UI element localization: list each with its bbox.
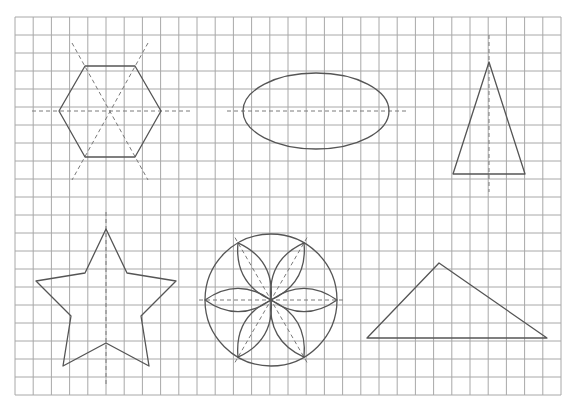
symmetry-axes [32, 35, 489, 386]
flower-in-circle [205, 234, 337, 366]
symmetry-grid-diagram [0, 0, 574, 409]
scalene-triangle [367, 263, 547, 338]
